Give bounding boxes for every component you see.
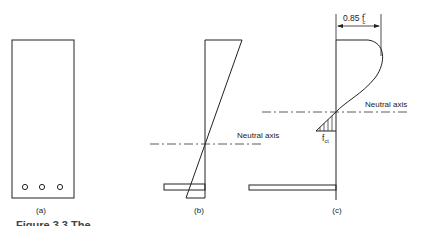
figure-caption: Figure 3.3 The … (16, 219, 105, 226)
figure-canvas: (a) Neutral axis (b) Neutral axis (0, 0, 426, 226)
tension-stress-label: fct (322, 133, 329, 144)
panel-label-a: (a) (36, 206, 46, 215)
panel-a-cross-section: (a) (12, 40, 74, 215)
strain-diagonal (186, 40, 242, 198)
panel-label-b: (b) (194, 206, 204, 215)
beam-section-outline (12, 40, 74, 198)
rebar-circle (39, 184, 44, 189)
panel-c-stress: Neutral axis 0.85 f′c fct (c) (249, 12, 410, 215)
steel-strain-bar (164, 184, 205, 190)
panel-label-c: (c) (332, 206, 342, 215)
rebar-circle (57, 184, 62, 189)
stress-curve (316, 40, 383, 131)
arrowhead-left-icon (337, 24, 343, 28)
neutral-axis-label-c: Neutral axis (365, 100, 407, 109)
arrowhead-right-icon (374, 24, 380, 28)
neutral-axis-label-b: Neutral axis (237, 131, 279, 140)
steel-stress-bar (249, 185, 336, 190)
panel-b-strain: Neutral axis (b) (150, 40, 279, 215)
peak-stress-label: 0.85 f′c (343, 12, 366, 25)
rebar-circle (22, 184, 27, 189)
